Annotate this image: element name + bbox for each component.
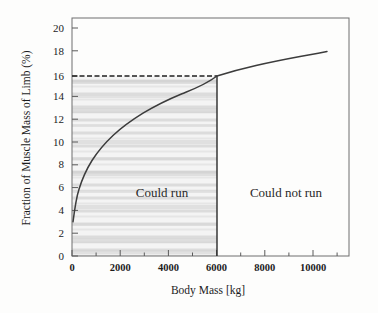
x-axis-title: Body Mass [kg]	[171, 284, 245, 297]
x-tick-label-4000: 4000	[158, 262, 179, 273]
y-tick-label-18: 18	[53, 45, 65, 57]
annotation-could-not-run: Could not run	[250, 185, 323, 200]
figure-root: 0 2 4 6 8 10 12 14 16 18 20	[0, 0, 378, 313]
y-tick-label-14: 14	[53, 90, 65, 102]
x-tick-label-10000: 10000	[300, 262, 326, 273]
y-tick-label-0: 0	[59, 250, 65, 262]
x-tick-label-8000: 8000	[254, 262, 275, 273]
chart-canvas: 0 2 4 6 8 10 12 14 16 18 20	[0, 0, 378, 313]
x-tick-label-0: 0	[69, 262, 74, 273]
y-axis-title: Fraction of Muscle Mass of Limb (%)	[20, 50, 33, 225]
y-axis-tick-labels: 0 2 4 6 8 10 12 14 16 18 20	[53, 22, 65, 262]
annotation-could-run: Could run	[136, 185, 189, 200]
x-tick-label-2000: 2000	[110, 262, 131, 273]
y-tick-label-20: 20	[53, 22, 65, 34]
y-tick-label-2: 2	[59, 227, 65, 239]
y-tick-label-16: 16	[53, 70, 65, 82]
x-axis-tick-labels: 0 2000 4000 6000 8000 10000	[69, 262, 326, 273]
y-tick-label-4: 4	[59, 204, 65, 216]
x-tick-label-6000: 6000	[206, 262, 227, 273]
y-tick-label-8: 8	[59, 158, 65, 170]
could-run-shaded-region	[72, 76, 217, 256]
y-tick-label-6: 6	[59, 181, 65, 193]
y-tick-label-12: 12	[53, 113, 64, 125]
y-tick-label-10: 10	[53, 136, 65, 148]
